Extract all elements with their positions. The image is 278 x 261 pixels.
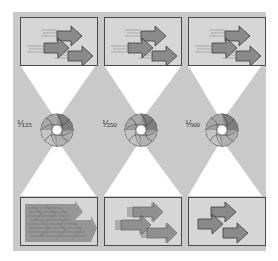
shutter-speed-label-125: ¹⁄₁₂₅ <box>17 119 31 129</box>
moving-arrows-icon <box>105 18 182 66</box>
captured-arrows-icon <box>189 198 266 246</box>
shutter-speed-label-250: ¹⁄₂₅₀ <box>102 119 116 129</box>
shutter-speed-label-500: ¹⁄₅₀₀ <box>185 119 199 129</box>
captured-arrows-icon <box>105 198 182 246</box>
camera-aperture-icon <box>205 113 239 147</box>
camera-aperture-icon <box>40 113 74 147</box>
result-box-125 <box>20 197 98 246</box>
subject-box-2 <box>104 17 182 66</box>
result-box-500 <box>188 197 266 246</box>
result-box-250 <box>104 197 182 246</box>
subject-box-3 <box>188 17 266 66</box>
subject-box-1 <box>20 17 98 66</box>
moving-arrows-icon <box>189 18 266 66</box>
camera-aperture-icon <box>124 113 158 147</box>
captured-arrows-icon <box>21 198 98 246</box>
moving-arrows-icon <box>21 18 98 66</box>
